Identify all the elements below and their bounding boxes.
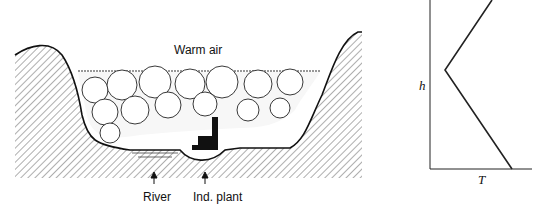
ind-plant-label: Ind. plant bbox=[193, 190, 242, 204]
fog-layer bbox=[78, 66, 320, 143]
temperature-profile-chart bbox=[430, 0, 532, 169]
warm-air-label: Warm air bbox=[174, 43, 222, 57]
height-axis-label: h bbox=[419, 78, 426, 94]
river-label: River bbox=[143, 190, 171, 204]
temperature-profile-line bbox=[445, 0, 512, 169]
valley-inversion-diagram bbox=[0, 0, 541, 216]
temperature-axis-label: T bbox=[478, 172, 485, 188]
